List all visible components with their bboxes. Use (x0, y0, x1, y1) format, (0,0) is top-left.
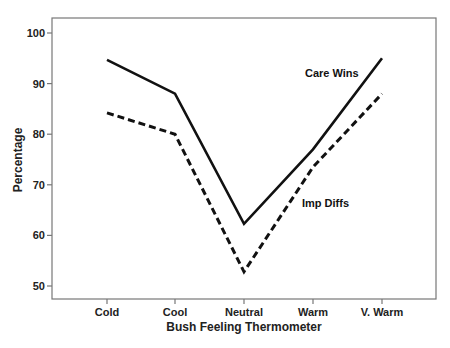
x-tick-label: V. Warm (361, 306, 404, 318)
x-tick-label: Warm (298, 306, 328, 318)
series-label-care-wins: Care Wins (305, 67, 359, 79)
y-tick-label: 70 (33, 179, 45, 191)
y-tick-label: 60 (33, 229, 45, 241)
x-tick-label: Neutral (225, 306, 263, 318)
series-line-imp-diffs (107, 94, 382, 272)
series-label-imp-diffs: Imp Diffs (302, 197, 349, 209)
x-axis: ColdCoolNeutralWarmV. Warm (95, 299, 404, 318)
y-axis: 5060708090100 (27, 27, 52, 292)
y-tick-label: 50 (33, 280, 45, 292)
y-tick-label: 80 (33, 128, 45, 140)
y-axis-title: Percentage (11, 127, 25, 192)
x-tick-label: Cool (163, 306, 187, 318)
x-axis-title: Bush Feeling Thermometer (166, 320, 322, 334)
y-tick-label: 90 (33, 78, 45, 90)
y-tick-label: 100 (27, 27, 45, 39)
x-tick-label: Cold (95, 306, 119, 318)
line-chart: 5060708090100 ColdCoolNeutralWarmV. Warm… (0, 0, 450, 348)
series-lines (107, 58, 382, 271)
